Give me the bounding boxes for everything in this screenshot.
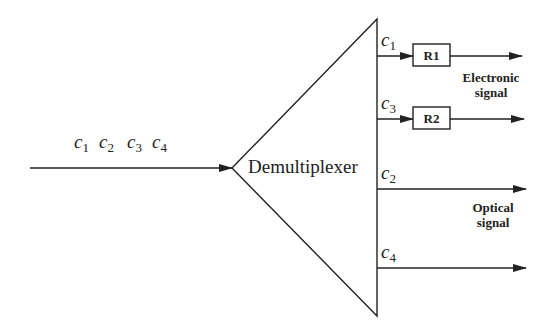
input-label-c2: c2 [99,132,114,154]
electronic-signal-line2: signal [456,85,526,100]
output-label-c1: c1 [381,30,396,52]
input-label-c3: c3 [127,132,142,154]
optical-signal-label: Optical signal [466,200,520,230]
output-label-c4: c4 [381,242,396,264]
input-label-c1: c1 [74,132,89,154]
demultiplexer-label: Demultiplexer [248,156,358,178]
output-label-c3: c3 [381,93,396,115]
input-label-c4: c4 [152,132,167,154]
optical-signal-line2: signal [466,215,520,230]
optical-signal-line1: Optical [466,200,520,215]
electronic-signal-line1: Electronic [456,70,526,85]
electronic-signal-label: Electronic signal [456,70,526,100]
output-label-c2: c2 [381,163,396,185]
r2-label: R2 [413,111,450,127]
r1-label: R1 [413,48,450,64]
